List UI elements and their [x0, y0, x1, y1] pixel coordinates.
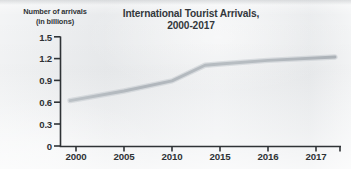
axis-lines — [60, 37, 341, 147]
y-axis-ticks — [54, 37, 61, 146]
line-chart: Number of arrivals (in billions) Interna… — [0, 0, 351, 169]
plot-area — [0, 0, 351, 169]
data-series-tourist-arrivals — [70, 57, 335, 101]
